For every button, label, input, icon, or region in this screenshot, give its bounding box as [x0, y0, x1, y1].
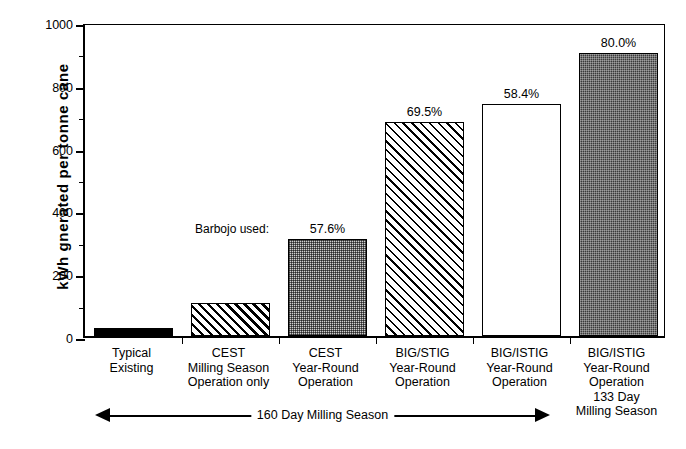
milling-season-arrow: 160 Day Milling Season: [95, 406, 550, 426]
category-label-cest-year-round: CESTYear-RoundOperation: [277, 346, 374, 390]
category-label-line: Operation: [471, 375, 568, 390]
category-label-cest-milling-season: CESTMilling SeasonOperation only: [180, 346, 277, 390]
y-axis-tick: [76, 88, 85, 90]
category-label-line: Operation: [277, 375, 374, 390]
x-axis-tick: [279, 336, 280, 344]
category-label-line: Year-Round: [374, 361, 471, 376]
y-axis-tick: [76, 276, 85, 278]
bar-cest-milling-season: [191, 303, 270, 336]
plot-area: 1000800600400200057.6%69.5%58.4%80.0%Bar…: [83, 24, 665, 338]
bar-value-label-big-stig-year-round: 69.5%: [407, 105, 442, 119]
category-label-line: Operation: [374, 375, 471, 390]
category-label-line: Milling Season: [180, 361, 277, 376]
bar-big-stig-year-round: [385, 122, 464, 336]
category-label-line: 133 Day: [568, 390, 665, 405]
category-label-line: Year-Round: [277, 361, 374, 376]
y-axis-minor-tick: [79, 308, 85, 309]
y-axis-tick-label: 600: [52, 144, 73, 158]
category-label-big-istig-133-day: BIG/ISTIGYear-RoundOperation133 DayMilli…: [568, 346, 665, 419]
x-axis-tick: [182, 336, 183, 344]
y-axis-tick: [76, 213, 85, 215]
y-axis-minor-tick: [79, 56, 85, 57]
bar-big-istig-133-day: [579, 53, 658, 336]
y-axis-tick: [76, 25, 85, 27]
y-axis-minor-tick: [79, 245, 85, 246]
category-label-line: Operation: [568, 375, 665, 390]
category-label-line: Existing: [83, 361, 180, 376]
y-axis-minor-tick: [79, 182, 85, 183]
y-axis-tick-label: 200: [52, 269, 73, 283]
y-axis-tick-label: 0: [66, 332, 73, 346]
category-label-line: BIG/ISTIG: [568, 346, 665, 361]
category-label-big-istig-year-round: BIG/ISTIGYear-RoundOperation: [471, 346, 568, 390]
y-axis-tick-label: 400: [52, 206, 73, 220]
x-axis-tick: [570, 336, 571, 344]
category-label-line: Year-Round: [471, 361, 568, 376]
category-label-line: BIG/STIG: [374, 346, 471, 361]
chart-canvas: kWh gnerated per tonne cane 100080060040…: [0, 0, 686, 449]
x-axis-tick: [376, 336, 377, 344]
y-axis-tick-label: 800: [52, 81, 73, 95]
y-axis-minor-tick: [79, 119, 85, 120]
category-label-big-stig-year-round: BIG/STIGYear-RoundOperation: [374, 346, 471, 390]
category-label-line: CEST: [277, 346, 374, 361]
y-axis-tick: [76, 151, 85, 153]
bar-value-label-big-istig-133-day: 80.0%: [601, 36, 636, 50]
bar-typical-existing: [94, 328, 173, 336]
bar-cest-year-round: [288, 239, 367, 336]
category-label-line: Typical: [83, 346, 180, 361]
category-label-typical-existing: TypicalExisting: [83, 346, 180, 375]
category-label-line: Milling Season: [568, 404, 665, 419]
x-axis-tick: [473, 336, 474, 344]
milling-season-arrow-label: 160 Day Milling Season: [251, 408, 394, 422]
bar-value-label-cest-year-round: 57.6%: [310, 222, 345, 236]
category-label-line: Year-Round: [568, 361, 665, 376]
bar-value-label-big-istig-year-round: 58.4%: [504, 87, 539, 101]
category-label-line: BIG/ISTIG: [471, 346, 568, 361]
category-label-line: CEST: [180, 346, 277, 361]
arrow-head-right-icon: [535, 408, 550, 422]
barbojo-annotation: Barbojo used:: [195, 222, 269, 236]
y-axis-tick: [76, 339, 85, 341]
bar-big-istig-year-round: [482, 104, 561, 336]
category-label-line: Operation only: [180, 375, 277, 390]
y-axis-tick-label: 1000: [45, 18, 73, 32]
